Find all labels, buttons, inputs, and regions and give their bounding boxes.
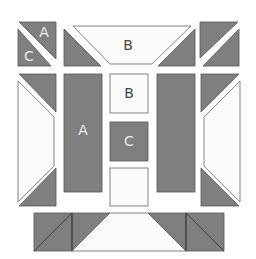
- left-column: [18, 74, 56, 206]
- center-bottom-box: [110, 168, 148, 206]
- label-top-trapezoid: B: [123, 37, 133, 53]
- label-left-tall-bar: A: [78, 122, 88, 138]
- label-top-left-lower: C: [24, 48, 34, 64]
- label-top-left-upper: A: [39, 24, 49, 40]
- top-left-block: A C: [18, 22, 56, 66]
- right-column: [201, 74, 240, 206]
- left-tall-bar: A: [64, 74, 102, 192]
- top-right-block: [200, 22, 239, 66]
- right-tall-bar: [157, 74, 195, 192]
- quilt-diagram: A C B A B C: [0, 0, 256, 259]
- center-column: B C: [110, 74, 148, 206]
- label-center-middle-box: C: [124, 133, 134, 149]
- label-center-top-box: B: [124, 85, 134, 101]
- bottom-strip: [34, 213, 224, 251]
